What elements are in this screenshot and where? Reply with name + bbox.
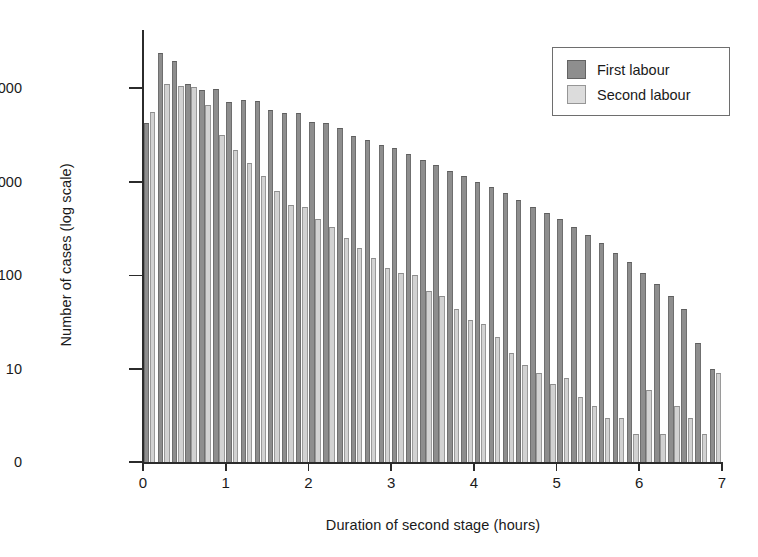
bar-first-labour xyxy=(351,136,357,462)
bar-second-labour xyxy=(219,135,225,462)
y-axis-title: Number of cases (log scale) xyxy=(58,105,74,405)
bar-first-labour xyxy=(337,128,343,462)
x-tick-mark xyxy=(225,462,227,471)
legend-swatch-first-labour xyxy=(567,60,586,79)
bar-first-labour xyxy=(668,296,674,462)
y-tick-label: 1000 xyxy=(0,174,22,190)
bar-second-labour xyxy=(288,205,294,462)
bar-first-labour xyxy=(296,113,302,462)
bar-second-labour xyxy=(274,191,280,462)
x-tick-mark xyxy=(473,462,475,471)
chart-legend: First labour Second labour xyxy=(552,47,730,116)
bar-second-labour xyxy=(150,112,156,462)
bar-first-labour xyxy=(241,100,247,462)
bar-first-labour xyxy=(433,165,439,462)
bar-first-labour xyxy=(640,273,646,462)
bar-second-labour xyxy=(357,248,363,462)
bar-first-labour xyxy=(199,90,205,462)
bar-second-labour xyxy=(398,273,404,462)
bar-second-labour xyxy=(550,384,556,463)
bar-second-labour xyxy=(454,309,460,462)
bar-first-labour xyxy=(544,213,550,463)
x-tick-label: 5 xyxy=(537,474,577,491)
x-tick-label: 0 xyxy=(123,474,163,491)
x-tick-label: 4 xyxy=(454,474,494,491)
bar-first-labour xyxy=(392,148,398,462)
bar-second-labour xyxy=(164,84,170,462)
bar-second-labour xyxy=(509,353,515,462)
bar-second-labour xyxy=(605,418,611,462)
x-tick-mark xyxy=(721,462,723,471)
bar-first-labour xyxy=(557,219,563,462)
bar-second-labour xyxy=(371,258,377,462)
bar-first-labour xyxy=(282,113,288,462)
x-tick-mark xyxy=(308,462,310,471)
bar-second-labour xyxy=(646,390,652,462)
y-tick-mark xyxy=(129,368,142,370)
bar-first-labour xyxy=(255,101,261,462)
bar-first-labour xyxy=(144,123,150,462)
x-tick-mark xyxy=(390,462,392,471)
bar-second-labour xyxy=(660,434,666,462)
bar-first-labour xyxy=(613,253,619,462)
bar-first-labour xyxy=(710,369,716,462)
bar-first-labour xyxy=(172,61,178,462)
bar-second-labour xyxy=(716,373,722,462)
bar-second-labour xyxy=(536,373,542,462)
bar-first-labour xyxy=(627,262,633,462)
bar-second-labour xyxy=(233,150,239,462)
bar-second-labour xyxy=(468,320,474,462)
bar-second-labour xyxy=(315,219,321,462)
y-tick-label: 0 xyxy=(0,454,22,470)
legend-label-first-labour: First labour xyxy=(597,62,670,78)
bar-first-labour xyxy=(681,309,687,462)
y-tick-label: 10 000 xyxy=(0,80,22,96)
y-tick-label: 100 xyxy=(0,267,22,283)
legend-label-second-labour: Second labour xyxy=(597,87,691,103)
bar-second-labour xyxy=(178,86,184,462)
bar-first-labour xyxy=(406,154,412,462)
bar-second-labour xyxy=(247,163,253,462)
x-tick-label: 3 xyxy=(371,474,411,491)
bar-second-labour xyxy=(633,434,639,462)
bar-first-labour xyxy=(530,207,536,462)
bar-first-labour xyxy=(654,284,660,462)
bar-first-labour xyxy=(599,243,605,462)
bar-second-labour xyxy=(481,324,487,462)
bar-first-labour xyxy=(379,145,385,462)
bar-second-labour xyxy=(412,275,418,462)
bar-second-labour xyxy=(592,406,598,462)
bar-first-labour xyxy=(489,187,495,462)
bar-second-labour xyxy=(385,268,391,462)
y-tick-mark xyxy=(129,461,142,463)
bar-first-labour xyxy=(185,84,191,462)
bar-first-labour xyxy=(447,171,453,462)
bar-first-labour xyxy=(503,193,509,462)
bar-first-labour xyxy=(268,110,274,462)
x-tick-mark xyxy=(556,462,558,471)
bar-first-labour xyxy=(585,235,591,462)
x-tick-label: 1 xyxy=(206,474,246,491)
x-tick-label: 2 xyxy=(288,474,328,491)
bar-first-labour xyxy=(226,102,232,462)
bar-first-labour xyxy=(323,123,329,462)
bar-first-labour xyxy=(158,53,164,462)
bar-second-labour xyxy=(191,87,197,462)
bar-second-labour xyxy=(702,434,708,462)
legend-item-second-labour: Second labour xyxy=(567,82,729,107)
bar-first-labour xyxy=(475,182,481,462)
bar-first-labour xyxy=(695,343,701,462)
bar-second-labour xyxy=(344,238,350,462)
bar-first-labour xyxy=(571,227,577,462)
x-axis-line xyxy=(143,462,723,464)
bar-first-labour xyxy=(365,140,371,462)
bar-first-labour xyxy=(420,160,426,462)
x-axis-title: Duration of second stage (hours) xyxy=(143,517,723,533)
x-tick-mark xyxy=(638,462,640,471)
y-tick-mark xyxy=(129,87,142,89)
x-tick-mark xyxy=(142,462,144,471)
bar-second-labour xyxy=(495,337,501,462)
bar-second-labour xyxy=(426,291,432,462)
bar-second-labour xyxy=(329,227,335,462)
x-tick-label: 7 xyxy=(702,474,742,491)
